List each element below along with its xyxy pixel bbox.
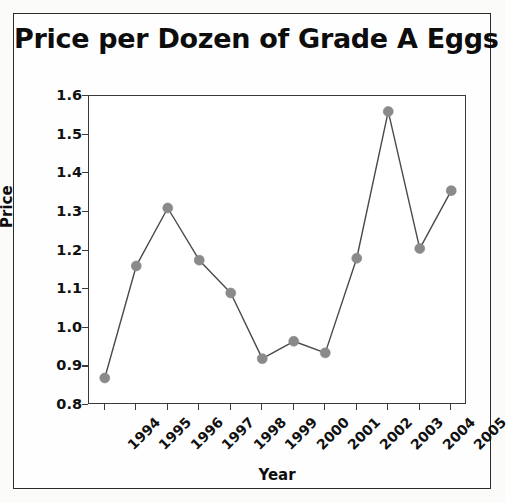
- y-tick-label: 1.6: [42, 87, 82, 103]
- data-point-marker: [100, 373, 110, 383]
- x-axis-title: Year: [88, 466, 466, 484]
- plot-area: [88, 95, 466, 404]
- y-tick-label: 1.4: [42, 164, 82, 180]
- data-point-marker: [131, 261, 141, 271]
- y-tick-label: 1.0: [42, 319, 82, 335]
- series-plot: [89, 96, 467, 405]
- data-point-marker: [383, 106, 393, 116]
- y-tick-label: 1.1: [42, 280, 82, 296]
- data-point-marker: [257, 354, 267, 364]
- y-tick-label: 1.3: [42, 203, 82, 219]
- data-point-marker: [352, 253, 362, 263]
- data-point-marker: [163, 203, 173, 213]
- y-axis-tick-labels: 0.80.91.01.11.21.31.41.51.6: [38, 0, 82, 503]
- data-line: [105, 111, 452, 378]
- data-markers: [100, 106, 457, 383]
- y-tick-label: 0.8: [42, 396, 82, 412]
- data-point-marker: [226, 288, 236, 298]
- y-tick-mark: [82, 404, 88, 405]
- data-point-marker: [320, 348, 330, 358]
- data-point-marker: [415, 244, 425, 254]
- data-point-marker: [194, 255, 204, 265]
- y-tick-label: 0.9: [42, 357, 82, 373]
- y-tick-label: 1.2: [42, 242, 82, 258]
- chart-title: Price per Dozen of Grade A Eggs: [14, 23, 484, 54]
- y-tick-label: 1.5: [42, 126, 82, 142]
- y-axis-title: Price: [0, 185, 16, 228]
- data-point-marker: [289, 336, 299, 346]
- data-point-marker: [446, 186, 456, 196]
